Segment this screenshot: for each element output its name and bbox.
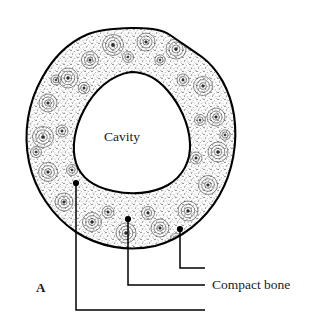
callout-dot-2 [125,216,131,222]
osteon [208,142,228,162]
compact-bone-label: Compact bone [212,278,290,292]
callout-line-3 [180,229,205,268]
cavity-label: Cavity [104,130,140,144]
osteon [58,68,78,88]
callout-dot-1 [73,180,79,186]
osteon [83,213,102,232]
osteon [178,201,198,221]
osteon [39,163,58,182]
osteon [166,39,186,59]
panel-letter-label: A [36,281,45,294]
osteon [103,35,124,56]
osteon [194,77,213,96]
osteon [33,127,54,148]
bone-cross-section-figure: Cavity Compact bone A [0,0,319,330]
osteon [116,223,136,243]
callout-dot-3 [177,226,183,232]
